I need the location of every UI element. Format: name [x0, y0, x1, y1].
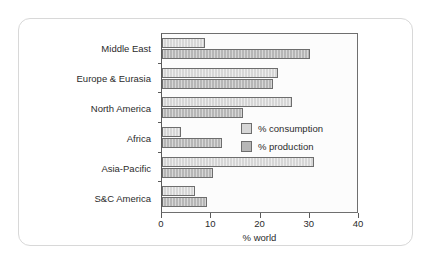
legend-item-consumption: % consumption — [241, 123, 323, 134]
bar-group-bars — [162, 64, 357, 94]
legend-swatch-production-icon — [241, 141, 252, 152]
bar-consumption-5 — [162, 186, 195, 196]
y-axis-label-2: North America — [19, 93, 157, 123]
bar-chart: Middle East Europe & Eurasia North Ameri… — [19, 19, 414, 247]
bar-group-0 — [162, 34, 357, 64]
x-axis-tick-label-0: 0 — [158, 218, 163, 229]
y-axis-label-1: Europe & Eurasia — [19, 63, 157, 93]
y-axis-labels: Middle East Europe & Eurasia North Ameri… — [19, 33, 157, 213]
bar-group-2 — [162, 93, 357, 123]
bar-production-1 — [162, 79, 273, 89]
legend-item-production: % production — [241, 141, 323, 152]
bar-consumption-0 — [162, 38, 205, 48]
chart-card: Middle East Europe & Eurasia North Ameri… — [18, 18, 413, 246]
y-axis-label-0: Middle East — [19, 33, 157, 63]
bar-production-3 — [162, 138, 222, 148]
legend-label-production: % production — [258, 141, 313, 152]
bar-production-2 — [162, 108, 243, 118]
y-axis-label-4: Asia-Pacific — [19, 153, 157, 183]
bar-group-bars — [162, 34, 357, 64]
bar-production-4 — [162, 168, 213, 178]
screenshot-root: Middle East Europe & Eurasia North Ameri… — [0, 0, 433, 266]
bar-group-5 — [162, 182, 357, 212]
x-axis-tick-label-1: 10 — [205, 218, 216, 229]
bar-production-5 — [162, 197, 207, 207]
chart-legend: % consumption % production — [241, 123, 323, 159]
y-axis-label-5: S&C America — [19, 183, 157, 213]
bar-consumption-1 — [162, 68, 278, 78]
x-axis-tick-label-2: 20 — [254, 218, 265, 229]
y-axis-label-3: Africa — [19, 123, 157, 153]
x-axis-tick-labels: 010203040 — [161, 218, 358, 232]
legend-swatch-consumption-icon — [241, 123, 252, 134]
bar-consumption-3 — [162, 127, 181, 137]
bar-group-bars — [162, 182, 357, 212]
x-axis-title: % world — [161, 232, 358, 243]
bar-group-1 — [162, 64, 357, 94]
bar-consumption-2 — [162, 97, 292, 107]
bar-production-0 — [162, 49, 310, 59]
x-axis-tick-label-4: 40 — [353, 218, 364, 229]
bar-group-bars — [162, 93, 357, 123]
legend-label-consumption: % consumption — [258, 123, 323, 134]
x-axis-tick-label-3: 30 — [303, 218, 314, 229]
